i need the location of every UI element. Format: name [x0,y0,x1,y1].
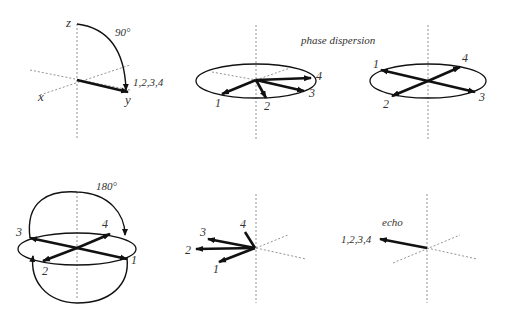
label-3: 3 [478,90,485,104]
rotation-arc-top [29,192,125,238]
vector-4 [77,234,110,248]
panel-90-pulse: z x y 90° 1,2,3,4 [30,15,164,140]
vector-1 [77,248,127,259]
z-label: z [65,15,71,30]
label-2: 2 [383,97,389,111]
pulse-label: 180° [96,180,118,192]
label-4: 4 [102,217,108,231]
magnetization-vector [77,80,128,92]
vector-3 [428,81,475,92]
y-label: y [123,92,131,107]
vector-1 [381,70,428,81]
phase-dispersion-label: phase dispersion [300,34,376,46]
axis-line [256,235,288,248]
vector-2 [43,248,77,261]
panel-full-dispersion: 1 2 3 4 [370,25,486,140]
vector-2 [392,81,428,96]
x-label: x [37,89,44,104]
panel-echo: echo 1,2,3,4 [341,194,477,303]
label-2: 2 [42,264,48,278]
axis-line [212,72,256,80]
label-4: 4 [240,217,246,231]
echo-vector [380,239,427,248]
pulse-label: 90° [115,26,131,38]
vector-4 [256,78,311,80]
label-1: 1 [213,262,219,276]
vector-3 [30,238,77,248]
vector-4 [428,67,460,81]
spin-echo-diagram: z x y 90° 1,2,3,4 1 2 3 4 phase dispersi… [0,0,505,313]
vector-1 [219,248,255,262]
echo-label: echo [382,216,403,228]
vector-1 [222,80,256,94]
label-3: 3 [199,225,206,239]
label-3: 3 [15,225,22,239]
label-1: 1 [373,57,379,71]
vector-2 [196,248,255,249]
vector-label: 1,2,3,4 [341,233,372,245]
vector-3 [256,80,304,91]
vector-3 [208,239,255,248]
label-4: 4 [316,69,322,83]
vector-label: 1,2,3,4 [133,76,164,88]
panel-rephasing: 4 3 2 1 [185,194,306,303]
label-1: 1 [131,253,137,267]
label-1: 1 [215,96,221,110]
label-3: 3 [308,86,315,100]
label-2: 2 [264,99,270,113]
axis-line [427,248,477,259]
panel-180-pulse: 3 4 2 1 180° [15,180,137,303]
axis-line [256,248,306,259]
label-2: 2 [185,243,191,257]
label-4: 4 [462,51,468,65]
